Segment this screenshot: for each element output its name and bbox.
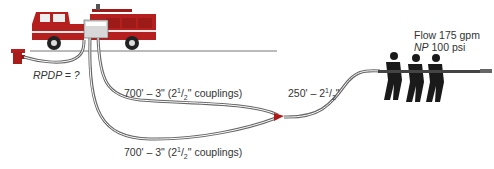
line-3-suffix: " bbox=[336, 87, 340, 99]
line-2-label: 700' – 3" (21/2" couplings) bbox=[124, 146, 242, 158]
diagram-canvas bbox=[0, 0, 494, 169]
firefighters-icon bbox=[378, 52, 492, 102]
line-2-fraction-num: 1 bbox=[177, 146, 181, 153]
line-2-suffix: " couplings) bbox=[188, 146, 243, 158]
hose-layout-diagram: RPDP = ? 700' – 3" (21/2" couplings) 700… bbox=[0, 0, 494, 169]
line-1-prefix: 700' – 3" (2 bbox=[124, 87, 177, 99]
siamese-icon bbox=[274, 113, 284, 121]
rpdp-label: RPDP = ? bbox=[33, 69, 80, 81]
line-3-prefix: 250' – 2 bbox=[288, 87, 325, 99]
np-value: 100 psi bbox=[432, 41, 466, 53]
flow-label: Flow 175 gpm bbox=[414, 29, 480, 41]
np-abbrev: NP bbox=[414, 41, 429, 53]
line-3-fraction-num: 1 bbox=[325, 87, 329, 94]
line-1-label: 700' – 3" (21/2" couplings) bbox=[124, 87, 242, 99]
line-1-suffix: " couplings) bbox=[188, 87, 243, 99]
line-3-label: 250' – 21/2" bbox=[288, 87, 340, 99]
attack-hose-line-1 bbox=[98, 38, 278, 115]
fire-truck-icon bbox=[32, 4, 156, 50]
hydrant-icon bbox=[11, 49, 25, 64]
line-2-prefix: 700' – 3" (2 bbox=[124, 146, 177, 158]
line-1-fraction-num: 1 bbox=[177, 87, 181, 94]
nozzle-pressure-label: NP 100 psi bbox=[414, 41, 465, 53]
